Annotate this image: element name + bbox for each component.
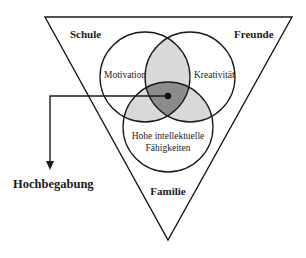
center-dot [165,93,171,99]
arrow-head-icon [46,161,54,170]
label-freunde: Freunde [234,28,274,40]
label-faehigkeiten-line2: Fähigkeiten [146,143,191,153]
hochbegabung-diagram: Schule Freunde Familie Motivation Kreati… [0,0,306,258]
label-motivation: Motivation [104,70,146,80]
label-faehigkeiten-line1: Hohe intellektuelle [132,131,205,141]
label-hochbegabung: Hochbegabung [13,177,94,191]
label-kreativitaet: Kreativität [194,70,235,80]
label-familie: Familie [150,185,186,197]
label-schule: Schule [70,28,101,40]
